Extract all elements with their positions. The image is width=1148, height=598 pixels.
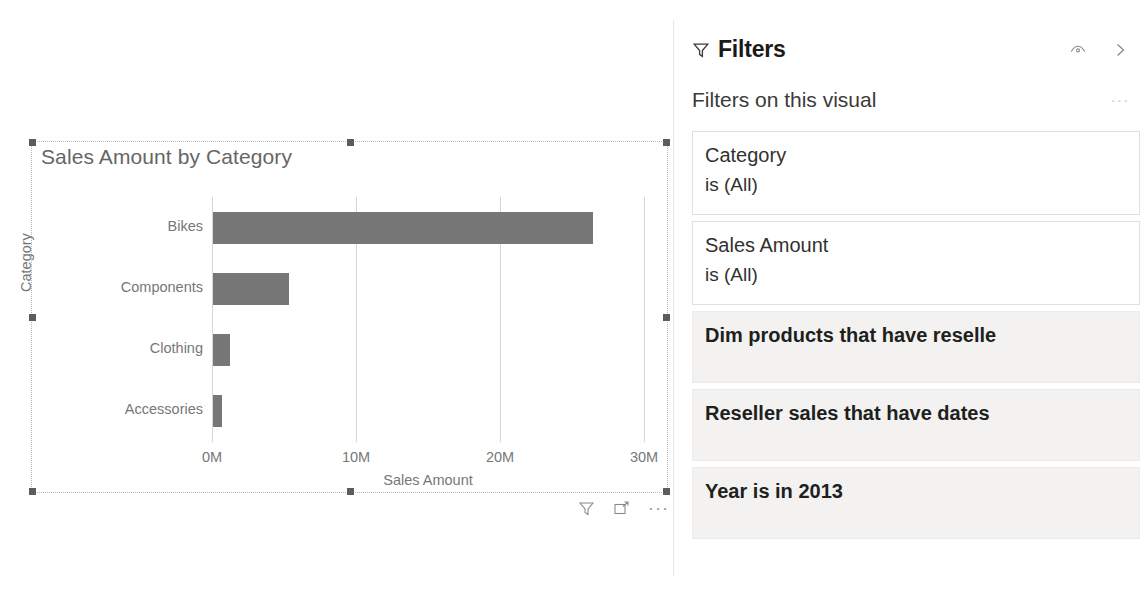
resize-handle-bottom-middle[interactable]	[347, 488, 354, 495]
filters-pane-actions	[1068, 40, 1130, 60]
filter-card-name: Reseller sales that have dates	[705, 398, 1127, 428]
bar-bikes[interactable]	[213, 212, 593, 244]
filter-card-name: Year is in 2013	[705, 476, 1127, 506]
x-tick-label: 20M	[486, 449, 514, 465]
filter-card[interactable]: Sales Amountis (All)	[692, 221, 1140, 305]
gridline	[644, 197, 645, 442]
filter-card[interactable]: Categoryis (All)	[692, 131, 1140, 215]
collapse-pane-chevron-icon[interactable]	[1110, 40, 1130, 60]
x-tick-label: 30M	[630, 449, 658, 465]
filter-card[interactable]: Dim products that have reselle	[692, 311, 1140, 383]
filter-card-name: Dim products that have reselle	[705, 320, 1127, 350]
filters-pane: Filters Filters on this visual ··· Categ…	[674, 0, 1148, 598]
y-axis-title: Category	[18, 233, 34, 292]
filter-card-name: Category	[705, 140, 1127, 170]
filter-card[interactable]: Reseller sales that have dates	[692, 389, 1140, 461]
filters-section-header: Filters on this visual ···	[692, 88, 1130, 112]
filter-card-value: is (All)	[705, 170, 1127, 200]
x-tick-label: 10M	[342, 449, 370, 465]
visual-footer-toolbar[interactable]: ···	[578, 500, 669, 517]
resize-handle-bottom-left[interactable]	[29, 488, 36, 495]
resize-handle-middle-left[interactable]	[29, 314, 36, 321]
more-options-icon[interactable]: ···	[648, 505, 669, 513]
filters-pane-header: Filters	[692, 36, 1130, 63]
category-label[interactable]: Clothing	[150, 340, 203, 356]
filter-card[interactable]: Year is in 2013	[692, 467, 1140, 539]
x-tick-label: 0M	[202, 449, 222, 465]
resize-handle-top-right[interactable]	[663, 139, 670, 146]
category-label[interactable]: Accessories	[125, 401, 203, 417]
filter-card-list: Categoryis (All)Sales Amountis (All)Dim …	[692, 131, 1140, 545]
filters-section-title: Filters on this visual	[692, 88, 876, 112]
filter-icon[interactable]	[578, 500, 595, 517]
category-label[interactable]: Components	[121, 279, 203, 295]
resize-handle-middle-right[interactable]	[663, 314, 670, 321]
focus-mode-icon[interactable]	[613, 500, 630, 517]
resize-handle-top-left[interactable]	[29, 139, 36, 146]
bar-components[interactable]	[213, 273, 289, 305]
filters-pane-title: Filters	[718, 36, 786, 63]
bar-chart-visual[interactable]: Sales Amount by Category Category 0M10M2…	[31, 141, 668, 493]
x-axis-title: Sales Amount	[212, 472, 644, 488]
bar-accessories[interactable]	[213, 395, 222, 427]
report-canvas: Sales Amount by Category Category 0M10M2…	[0, 0, 673, 598]
visual-title: Sales Amount by Category	[41, 145, 292, 169]
funnel-icon	[692, 41, 710, 59]
filters-section-more-icon[interactable]: ···	[1111, 96, 1131, 104]
category-label[interactable]: Bikes	[168, 218, 203, 234]
resize-handle-top-middle[interactable]	[347, 139, 354, 146]
resize-handle-bottom-right[interactable]	[663, 488, 670, 495]
filter-card-value: is (All)	[705, 260, 1127, 290]
plot-area: 0M10M20M30MBikesComponentsClothingAccess…	[212, 197, 644, 442]
filter-card-name: Sales Amount	[705, 230, 1127, 260]
hide-pane-eye-icon[interactable]	[1068, 40, 1088, 60]
bar-clothing[interactable]	[213, 334, 230, 366]
